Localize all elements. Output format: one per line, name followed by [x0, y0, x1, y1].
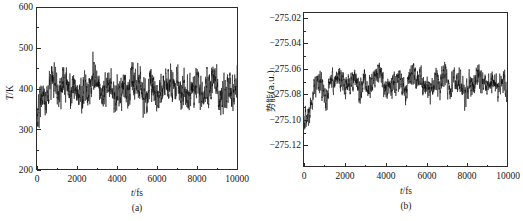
xtick-label-a-0: 0: [24, 174, 50, 184]
xtick-label-a-6000: 6000: [142, 174, 172, 184]
plot-area-a: [36, 7, 238, 170]
ytick-b-27502: [304, 18, 308, 19]
chart-panel-a: 600 500 400 300 200 0 2000 4000 6000: [0, 0, 262, 221]
xtick-b-minor-7000: [447, 165, 448, 167]
xtick-label-a-2000: 2000: [62, 174, 92, 184]
x-axis-title-a-unit: /fs: [134, 188, 144, 198]
ytick-label-b-27510: −275.10: [257, 115, 301, 125]
chart-panel-b: −275.02 −275.04 −275.06 −275.08 −275.10 …: [262, 0, 523, 221]
xtick-b-minor-9000: [487, 165, 488, 167]
ytick-label-a-300: 300: [8, 125, 33, 135]
xtick-label-b-6000: 6000: [412, 171, 442, 181]
ytick-a-minor-450: [37, 68, 39, 69]
y-axis-title-a-unit: /K: [5, 85, 15, 95]
ytick-b-minor-1: [304, 31, 306, 32]
xtick-b-minor-5000: [406, 165, 407, 167]
ytick-a-200: [37, 170, 41, 171]
ytick-b-27510: [304, 120, 308, 121]
xtick-label-a-4000: 4000: [102, 174, 132, 184]
plot-area-b: [303, 12, 508, 167]
ytick-a-minor-250: [37, 150, 39, 151]
xtick-a-2000: [77, 166, 78, 170]
xtick-label-b-4000: 4000: [371, 171, 401, 181]
xtick-label-b-2000: 2000: [330, 171, 360, 181]
xtick-b-8000: [467, 163, 468, 167]
xtick-b-6000: [427, 163, 428, 167]
xtick-b-4000: [386, 163, 387, 167]
xtick-a-minor-7000: [177, 168, 178, 170]
panel-caption-b: (b): [376, 201, 436, 211]
y-axis-title-a: T/K: [5, 85, 15, 100]
ytick-b-27506: [304, 69, 308, 70]
xtick-b-2000: [345, 163, 346, 167]
ytick-label-b-27502: −275.02: [257, 13, 301, 23]
ytick-a-500: [37, 48, 41, 49]
ytick-a-600: [37, 7, 41, 8]
xtick-a-minor-1000: [57, 168, 58, 170]
y-axis-title-b: 势能(a.u.): [264, 70, 277, 112]
x-axis-title-b: t/fs: [376, 186, 436, 196]
xtick-b-minor-3000: [365, 165, 366, 167]
panel-caption-a: (a): [107, 203, 167, 213]
ytick-a-minor-550: [37, 27, 39, 28]
ytick-b-minor-5: [304, 133, 306, 134]
xtick-label-b-10000: 10000: [491, 171, 523, 181]
xtick-a-6000: [157, 166, 158, 170]
ytick-b-27512: [304, 145, 308, 146]
ytick-label-a-600: 600: [8, 2, 33, 12]
ytick-b-27508: [304, 94, 308, 95]
ytick-b-minor-2: [304, 56, 306, 57]
xtick-a-minor-5000: [137, 168, 138, 170]
xtick-a-minor-9000: [217, 168, 218, 170]
ytick-label-a-500: 500: [8, 43, 33, 53]
xtick-label-b-0: 0: [291, 171, 317, 181]
temperature-trace: [37, 8, 237, 169]
ytick-a-minor-350: [37, 109, 39, 110]
ytick-a-400: [37, 89, 41, 90]
xtick-a-4000: [117, 166, 118, 170]
xtick-b-0: [304, 163, 305, 167]
ytick-b-27504: [304, 43, 308, 44]
ytick-b-minor-3: [304, 82, 306, 83]
x-axis-title-a: t/fs: [107, 188, 167, 198]
x-axis-title-b-unit: /fs: [403, 186, 413, 196]
xtick-label-b-8000: 8000: [452, 171, 482, 181]
xtick-a-minor-3000: [97, 168, 98, 170]
ytick-b-minor-4: [304, 107, 306, 108]
xtick-a-0: [37, 166, 38, 170]
xtick-b-minor-1000: [324, 165, 325, 167]
ytick-label-b-27504: −275.04: [257, 38, 301, 48]
potential-energy-trace: [304, 13, 507, 166]
y-axis-title-a-symbol: T: [5, 95, 15, 100]
xtick-a-10000: [237, 166, 238, 170]
ytick-label-b-27512: −275.12: [257, 140, 301, 150]
xtick-label-a-8000: 8000: [182, 174, 212, 184]
xtick-b-10000: [507, 163, 508, 167]
xtick-a-8000: [197, 166, 198, 170]
figure-container: 600 500 400 300 200 0 2000 4000 6000: [0, 0, 523, 221]
xtick-label-a-10000: 10000: [220, 174, 254, 184]
ytick-a-300: [37, 129, 41, 130]
